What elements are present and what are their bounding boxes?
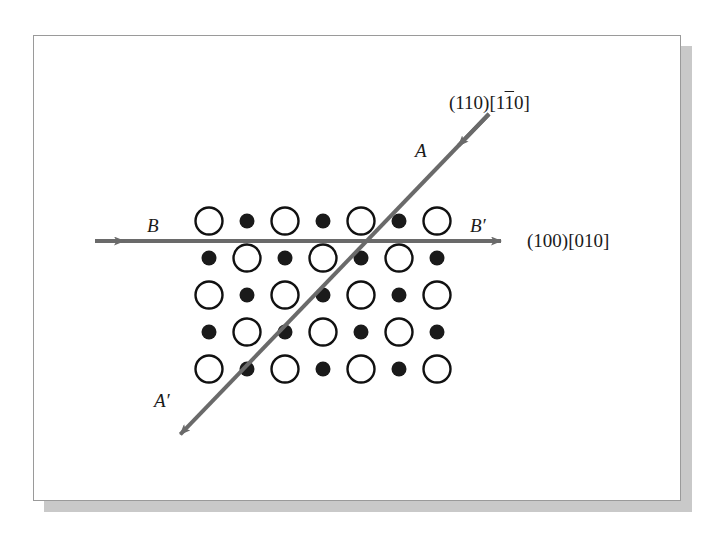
trace-line-aa-prime [180,114,489,434]
small-filled-atom [354,325,369,340]
large-open-atom [272,356,299,383]
large-open-atom [348,282,375,309]
small-filled-atom [392,214,407,229]
small-filled-atom [240,288,255,303]
small-filled-atom [202,325,217,340]
label-plane-direction-110: (110)[110] [449,93,530,112]
plane-110-prefix: (110)[1 [449,92,505,113]
large-open-atom [424,208,451,235]
label-trace-a: A [415,141,427,160]
small-filled-atom [240,214,255,229]
small-filled-atom [430,251,445,266]
large-open-atom [196,356,223,383]
trace-arrow-a-start [458,114,489,146]
small-filled-atom [430,325,445,340]
small-filled-atom [316,362,331,377]
small-filled-atom [316,214,331,229]
large-open-atom [272,282,299,309]
large-open-atom [424,282,451,309]
figure-root: A A′ B B′ (110)[110] (100)[010] [0,0,718,547]
large-open-atom [310,245,337,272]
atom-lattice [196,208,451,383]
large-open-atom [348,208,375,235]
plane-110-overbar-digit: 1 [505,92,515,113]
large-open-atom [234,319,261,346]
small-filled-atom [392,288,407,303]
large-open-atom [348,356,375,383]
direction-traces [95,114,501,434]
large-open-atom [386,245,413,272]
large-open-atom [196,282,223,309]
large-open-atom [234,245,261,272]
label-trace-b-prime: B′ [470,216,486,235]
large-open-atom [310,319,337,346]
small-filled-atom [392,362,407,377]
small-filled-atom [278,251,293,266]
large-open-atom [272,208,299,235]
label-plane-direction-100: (100)[010] [527,231,609,250]
large-open-atom [196,208,223,235]
lattice-diagram [0,0,718,547]
large-open-atom [424,356,451,383]
label-trace-a-prime: A′ [154,391,170,410]
plane-110-suffix: 0] [514,92,530,113]
large-open-atom [386,319,413,346]
small-filled-atom [202,251,217,266]
label-trace-b: B [147,216,159,235]
